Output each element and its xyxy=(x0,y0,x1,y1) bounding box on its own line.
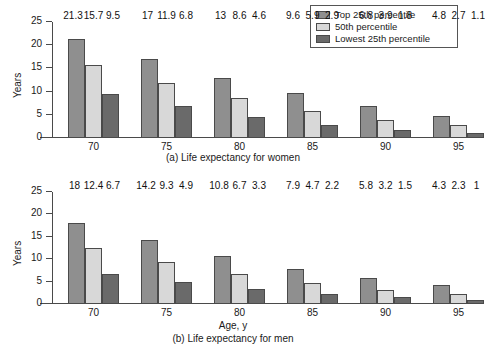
bar-group-men-70: 1812.46.770 xyxy=(68,192,119,304)
bar-group-men-75: 14.29.34.975 xyxy=(141,192,192,304)
bar-rect xyxy=(158,83,175,138)
y-tick-men-15: 15 xyxy=(46,236,52,237)
y-tick-label-women-0: 0 xyxy=(36,131,42,142)
x-tick-label-men-75: 75 xyxy=(161,307,172,318)
bar-value-label: 12.4 xyxy=(84,180,103,191)
bar-value-label: 9.3 xyxy=(160,180,174,191)
y-tick-women-0: 0 xyxy=(46,137,52,138)
bar-value-label: 13 xyxy=(215,10,226,21)
bar-value-label: 6.8 xyxy=(359,10,373,21)
bar-rect xyxy=(450,125,467,138)
bar-value-label: 4.6 xyxy=(252,10,266,21)
bar-rect xyxy=(467,300,484,304)
bar-group-women-75: 1711.96.875 xyxy=(141,22,192,138)
bar-rect xyxy=(321,125,338,138)
bar-men-90-low25: 1.5 xyxy=(394,192,411,304)
bar-rect xyxy=(141,240,158,304)
bar-group-men-85: 7.94.72.285 xyxy=(287,192,338,304)
bar-value-label: 4.7 xyxy=(306,180,320,191)
bar-group-men-80: 10.86.73.380 xyxy=(214,192,265,304)
bar-value-label: 4.3 xyxy=(432,180,446,191)
bar-value-label: 3.2 xyxy=(379,180,393,191)
plot-area-women: 051015202521.315.79.5701711.96.875138.64… xyxy=(52,22,456,138)
bar-rect xyxy=(214,78,231,138)
bar-women-90-top25: 6.8 xyxy=(360,22,377,138)
bar-group-men-90: 5.83.21.590 xyxy=(360,192,411,304)
bar-value-label: 5.8 xyxy=(359,180,373,191)
bar-value-label: 6.8 xyxy=(179,10,193,21)
y-tick-label-men-5: 5 xyxy=(36,275,42,286)
y-tick-women-15: 15 xyxy=(46,67,52,68)
y-tick-men-0: 0 xyxy=(46,303,52,304)
bar-women-80-low25: 4.6 xyxy=(248,22,265,138)
bar-group-women-90: 6.83.91.890 xyxy=(360,22,411,138)
bar-rect xyxy=(102,274,119,304)
bar-women-75-top25: 17 xyxy=(141,22,158,138)
bar-value-label: 21.3 xyxy=(63,10,82,21)
x-tick-label-men-95: 95 xyxy=(453,307,464,318)
chart-panel-men: Years 05101520251812.46.77014.29.34.9751… xyxy=(0,170,466,341)
x-tick-label-women-80: 80 xyxy=(234,141,245,152)
y-tick-men-25: 25 xyxy=(46,191,52,192)
bar-women-70-top25: 21.3 xyxy=(68,22,85,138)
bar-men-75-p50: 9.3 xyxy=(158,192,175,304)
bar-rect xyxy=(141,59,158,138)
y-tick-women-25: 25 xyxy=(46,21,52,22)
bar-value-label: 10.8 xyxy=(209,180,228,191)
bar-value-label: 4.8 xyxy=(432,10,446,21)
x-tick-label-men-85: 85 xyxy=(307,307,318,318)
bar-rect xyxy=(394,297,411,304)
chart-caption-women: (a) Life expectancy for women xyxy=(0,152,466,163)
y-axis-line-men xyxy=(52,192,53,304)
bar-value-label: 2.7 xyxy=(452,10,466,21)
bar-value-label: 2.2 xyxy=(325,180,339,191)
bar-group-women-80: 138.64.680 xyxy=(214,22,265,138)
bar-men-85-top25: 7.9 xyxy=(287,192,304,304)
bar-rect xyxy=(158,262,175,304)
bar-men-80-p50: 6.7 xyxy=(231,192,248,304)
x-tick-label-women-85: 85 xyxy=(307,141,318,152)
bar-men-80-low25: 3.3 xyxy=(248,192,265,304)
bar-value-label: 6.7 xyxy=(106,180,120,191)
bar-value-label: 3.9 xyxy=(379,10,393,21)
y-tick-label-men-15: 15 xyxy=(31,230,42,241)
bar-group-women-70: 21.315.79.570 xyxy=(68,22,119,138)
bar-value-label: 1.5 xyxy=(398,180,412,191)
bar-men-95-p50: 2.3 xyxy=(450,192,467,304)
bar-value-label: 2.9 xyxy=(325,10,339,21)
bar-men-90-top25: 5.8 xyxy=(360,192,377,304)
bar-rect xyxy=(394,130,411,138)
bar-rect xyxy=(248,289,265,304)
bar-rect xyxy=(68,39,85,138)
bar-rect xyxy=(321,294,338,304)
x-axis-title-men: Age, y xyxy=(0,320,466,331)
bar-rect xyxy=(360,278,377,304)
bar-value-label: 17 xyxy=(142,10,153,21)
bar-rect xyxy=(85,248,102,304)
bar-rect xyxy=(85,65,102,138)
y-tick-label-women-20: 20 xyxy=(31,38,42,49)
bar-value-label: 7.9 xyxy=(286,180,300,191)
y-tick-women-20: 20 xyxy=(46,44,52,45)
bar-value-label: 4.9 xyxy=(179,180,193,191)
bar-rect xyxy=(68,223,85,304)
bar-value-label: 9.6 xyxy=(286,10,300,21)
bar-rect xyxy=(231,98,248,138)
y-tick-label-men-0: 0 xyxy=(36,297,42,308)
x-tick-label-men-90: 90 xyxy=(380,307,391,318)
bar-men-85-low25: 2.2 xyxy=(321,192,338,304)
bar-men-80-top25: 10.8 xyxy=(214,192,231,304)
bar-women-85-top25: 9.6 xyxy=(287,22,304,138)
bar-men-85-p50: 4.7 xyxy=(304,192,321,304)
y-axis-label-women: Years xyxy=(12,73,23,98)
bar-women-80-top25: 13 xyxy=(214,22,231,138)
bar-rect xyxy=(304,111,321,138)
bar-women-95-p50: 2.7 xyxy=(450,22,467,138)
bar-rect xyxy=(214,256,231,304)
y-tick-label-women-10: 10 xyxy=(31,85,42,96)
bar-value-label: 9.5 xyxy=(106,10,120,21)
y-tick-label-women-5: 5 xyxy=(36,108,42,119)
bar-men-75-top25: 14.2 xyxy=(141,192,158,304)
bar-value-label: 15.7 xyxy=(84,10,103,21)
bar-value-label: 6.7 xyxy=(233,180,247,191)
